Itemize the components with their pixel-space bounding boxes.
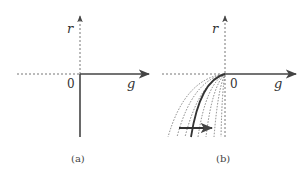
- panel-a: r g 0 (a): [17, 16, 149, 164]
- r-label: r: [212, 21, 219, 36]
- g-label: g: [274, 76, 282, 91]
- figure: r g 0 (a) r g 0 (b): [0, 0, 307, 177]
- origin-label: 0: [67, 77, 75, 91]
- caption-b: (b): [216, 153, 230, 164]
- caption-a: (a): [71, 153, 85, 164]
- panel-b: r g 0 (b): [162, 16, 296, 164]
- g-label: g: [127, 76, 135, 91]
- r-label: r: [67, 21, 74, 36]
- origin-label: 0: [230, 77, 238, 91]
